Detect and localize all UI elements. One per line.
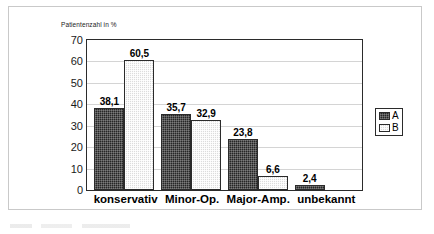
y-axis-tick-label: 60 (71, 56, 83, 67)
y-axis-tick-label: 50 (71, 77, 83, 88)
plot-area: 706050403020100 38,160,535,732,923,86,62… (86, 39, 363, 191)
bar-slot: 32,9 (191, 40, 221, 190)
y-axis-tick-label: 30 (71, 120, 83, 131)
bar-a[interactable]: 2,4 (295, 185, 325, 190)
bar-group: 38,160,5 (94, 40, 154, 190)
y-axis-title: Patientenzahl in % (61, 21, 117, 28)
bar-group: 23,86,6 (228, 40, 288, 190)
bar-a[interactable]: 35,7 (161, 114, 191, 191)
legend-swatch-b-icon (379, 124, 390, 132)
bar-slot (325, 40, 355, 190)
legend-label-b: B (392, 123, 399, 133)
y-axis-tick-label: 40 (71, 99, 83, 110)
bar-value-label: 60,5 (130, 49, 149, 59)
y-axis-tick-label: 20 (71, 142, 83, 153)
y-axis-tick-label: 70 (71, 35, 83, 46)
legend-label-a: A (392, 111, 399, 121)
bar-slot: 2,4 (295, 40, 325, 190)
bar-slot: 6,6 (258, 40, 288, 190)
bar-a[interactable]: 38,1 (94, 108, 124, 190)
bar-value-label: 35,7 (166, 103, 185, 113)
bar-b[interactable]: 60,5 (124, 60, 154, 190)
bar-value-label: 32,9 (196, 109, 215, 119)
x-axis-labels: konservativMinor-Op.Major-Amp.unbekannt (86, 193, 363, 205)
bar-group: 35,732,9 (161, 40, 221, 190)
bar-a[interactable]: 23,8 (228, 139, 258, 190)
y-axis-tick-label: 10 (71, 163, 83, 174)
bar-group: 2,4 (295, 40, 355, 190)
bar-value-label: 38,1 (100, 97, 119, 107)
x-axis-category-label: Major-Amp. (227, 193, 290, 205)
bar-slot: 23,8 (228, 40, 258, 190)
bar-value-label: 23,8 (233, 128, 252, 138)
x-axis-category-label: konservativ (94, 193, 158, 205)
x-axis-category-label: unbekannt (297, 193, 355, 205)
legend-item-a[interactable]: A (379, 111, 399, 121)
bar-slot: 38,1 (94, 40, 124, 190)
bar-slot: 35,7 (161, 40, 191, 190)
chart-legend[interactable]: A B (375, 108, 403, 136)
bar-groups: 38,160,535,732,923,86,62,4 (87, 40, 362, 190)
page-artifact (10, 224, 130, 228)
y-axis-tick-label: 0 (77, 185, 83, 196)
bar-b[interactable]: 32,9 (191, 120, 221, 191)
bar-slot: 60,5 (124, 40, 154, 190)
bar-value-label: 6,6 (266, 165, 280, 175)
chart-figure: Patientenzahl in % 706050403020100 38,16… (8, 6, 422, 210)
legend-item-b[interactable]: B (379, 123, 399, 133)
x-axis-category-label: Minor-Op. (165, 193, 219, 205)
bar-b[interactable]: 6,6 (258, 176, 288, 190)
legend-swatch-a-icon (379, 112, 390, 120)
bar-value-label: 2,4 (303, 174, 317, 184)
